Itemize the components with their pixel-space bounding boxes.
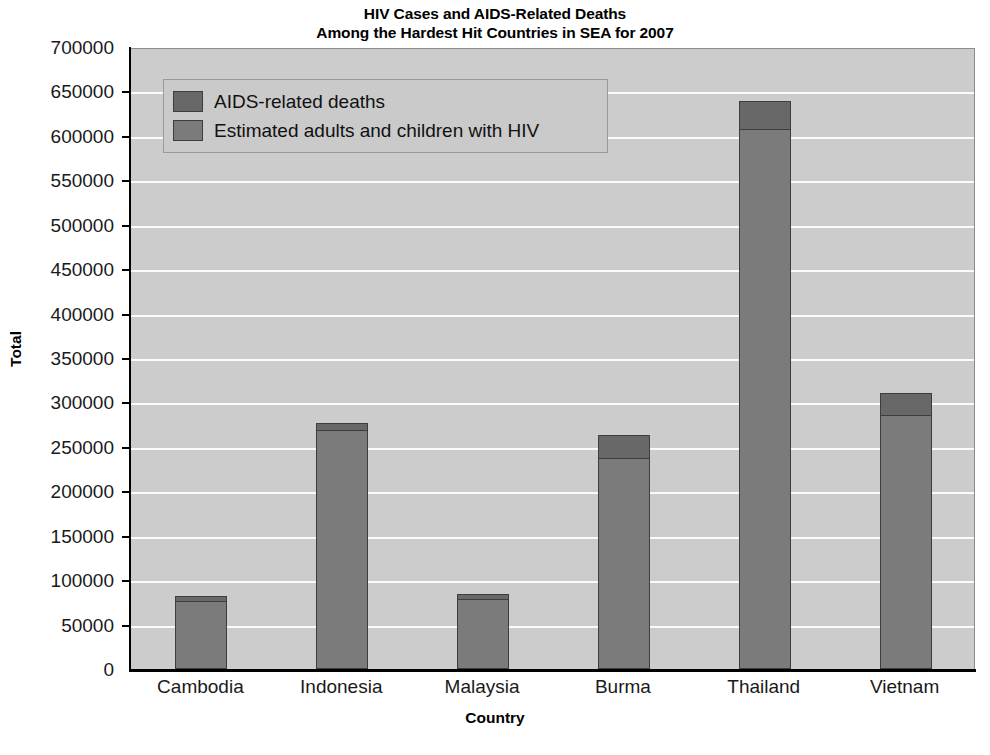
y-axis-tick-label: 150000 [0, 527, 114, 546]
chart-container: HIV Cases and AIDS-Related Deaths Among … [0, 0, 990, 755]
bar-segment-hiv[interactable] [739, 129, 791, 669]
x-axis-tick-label: Burma [543, 676, 703, 698]
y-axis-tick-label: 650000 [0, 82, 114, 101]
legend-swatch-icon [173, 120, 203, 141]
legend-item[interactable]: Estimated adults and children with HIV [173, 116, 598, 145]
y-axis-tick-label: 0 [0, 660, 114, 679]
gridline [131, 448, 974, 450]
gridline [131, 581, 974, 583]
bar-segment-hiv[interactable] [880, 415, 932, 669]
bar-segment-deaths[interactable] [457, 594, 509, 599]
bar-cambodia[interactable] [175, 596, 227, 669]
y-axis-tick [122, 358, 130, 360]
bar-malaysia[interactable] [457, 594, 509, 669]
bar-segment-deaths[interactable] [175, 596, 227, 602]
bar-segment-hiv[interactable] [457, 599, 509, 669]
gridline [131, 492, 974, 494]
y-axis-tick [122, 625, 130, 627]
y-axis-tick [122, 180, 130, 182]
bar-vietnam[interactable] [880, 393, 932, 669]
legend-item-label: Estimated adults and children with HIV [214, 120, 539, 141]
y-axis-tick-label: 50000 [0, 616, 114, 635]
bar-thailand[interactable] [739, 101, 791, 669]
bar-burma[interactable] [598, 435, 650, 669]
chart-title-line-1: HIV Cases and AIDS-Related Deaths [364, 5, 626, 22]
x-axis-line [129, 669, 976, 672]
y-axis-tick-label: 300000 [0, 393, 114, 412]
legend-item-label: AIDS-related deaths [214, 91, 385, 112]
gridline [131, 181, 974, 183]
x-axis-tick-label: Malaysia [402, 676, 562, 698]
y-axis-tick-label: 400000 [0, 305, 114, 324]
legend-swatch-icon [173, 91, 203, 112]
y-axis-tick-label: 250000 [0, 438, 114, 457]
bar-segment-deaths[interactable] [880, 393, 932, 416]
gridline [131, 626, 974, 628]
bar-segment-deaths[interactable] [316, 423, 368, 431]
y-axis-tick-label: 550000 [0, 171, 114, 190]
legend-item[interactable]: AIDS-related deaths [173, 87, 598, 116]
gridline [131, 315, 974, 317]
chart-title-line-2: Among the Hardest Hit Countries in SEA f… [0, 23, 990, 42]
x-axis-tick-label: Vietnam [825, 676, 985, 698]
gridline [131, 537, 974, 539]
y-axis-tick-label: 200000 [0, 482, 114, 501]
bar-segment-hiv[interactable] [316, 430, 368, 669]
gridline [131, 270, 974, 272]
bar-segment-deaths[interactable] [739, 101, 791, 130]
bar-segment-hiv[interactable] [175, 601, 227, 669]
y-axis-tick [122, 447, 130, 449]
bar-segment-hiv[interactable] [598, 458, 650, 669]
y-axis-tick-label: 450000 [0, 260, 114, 279]
y-axis-tick-label: 600000 [0, 127, 114, 146]
chart-legend: AIDS-related deathsEstimated adults and … [163, 79, 608, 153]
y-axis-tick [122, 136, 130, 138]
y-axis-tick [122, 225, 130, 227]
gridline [131, 359, 974, 361]
bar-indonesia[interactable] [316, 423, 368, 669]
y-axis-tick-label: 100000 [0, 571, 114, 590]
y-axis-tick [122, 491, 130, 493]
y-axis-tick [122, 91, 130, 93]
y-axis-tick-label: 350000 [0, 349, 114, 368]
gridline [131, 226, 974, 228]
y-axis-tick [122, 402, 130, 404]
y-axis-tick [122, 536, 130, 538]
bar-segment-deaths[interactable] [598, 435, 650, 458]
x-axis-tick-label: Thailand [684, 676, 844, 698]
y-axis-tick [122, 314, 130, 316]
y-axis-tick [122, 580, 130, 582]
y-axis-tick [122, 269, 130, 271]
x-axis-title: Country [0, 709, 990, 727]
y-axis-tick-label: 700000 [0, 38, 114, 57]
gridline [131, 403, 974, 405]
x-axis-tick-label: Indonesia [261, 676, 421, 698]
chart-title: HIV Cases and AIDS-Related Deaths Among … [0, 4, 990, 42]
x-axis-tick-label: Cambodia [120, 676, 280, 698]
y-axis-tick-label: 500000 [0, 216, 114, 235]
